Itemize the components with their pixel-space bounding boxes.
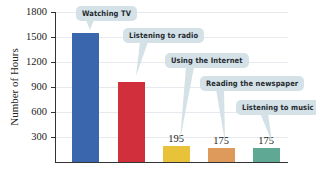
- callout-using-the-internet: Using the Internet: [165, 53, 249, 68]
- callout-reading-the-newspaper: Reading the newspaper: [200, 76, 304, 91]
- bar-chart: Number of Hours 1800 1500 1200 900 600 3…: [0, 0, 316, 174]
- callout-listening-to-radio: Listening to radio: [123, 28, 204, 43]
- callout-listening-to-music: Listening to music: [236, 100, 316, 115]
- callout-watching-tv: Watching TV: [76, 6, 137, 21]
